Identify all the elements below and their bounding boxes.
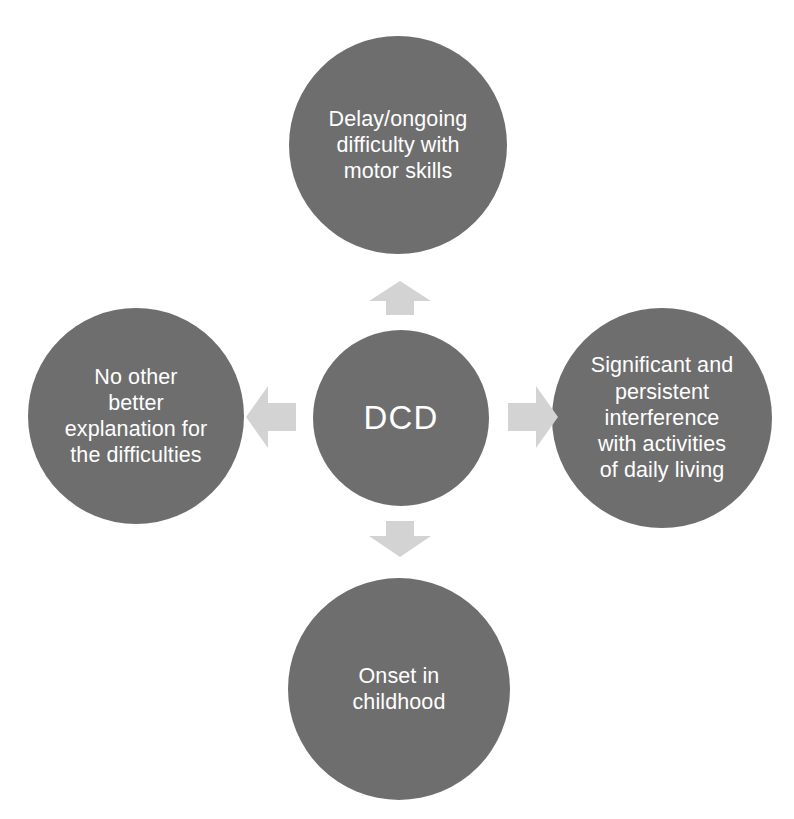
node-interference-daily-living[interactable]: Significant and persistent interference … xyxy=(552,308,772,528)
arrow-right-icon xyxy=(508,386,558,448)
arrow-up-icon xyxy=(369,281,431,315)
arrow-down-icon xyxy=(369,521,431,557)
node-dcd-center-label: DCD xyxy=(353,398,448,438)
node-motor-skills-label: Delay/ongoing difficulty with motor skil… xyxy=(319,106,478,185)
node-dcd-center[interactable]: DCD xyxy=(313,330,489,506)
node-no-other-explanation[interactable]: No other better explanation for the diff… xyxy=(28,308,244,524)
node-interference-daily-living-label: Significant and persistent interference … xyxy=(581,352,744,483)
node-motor-skills[interactable]: Delay/ongoing difficulty with motor skil… xyxy=(289,36,507,254)
node-onset-childhood-label: Onset in childhood xyxy=(343,663,456,715)
arrow-left-icon xyxy=(246,386,296,448)
diagram-canvas: Delay/ongoing difficulty with motor skil… xyxy=(0,0,794,819)
node-no-other-explanation-label: No other better explanation for the diff… xyxy=(55,364,218,469)
node-onset-childhood[interactable]: Onset in childhood xyxy=(288,578,510,800)
